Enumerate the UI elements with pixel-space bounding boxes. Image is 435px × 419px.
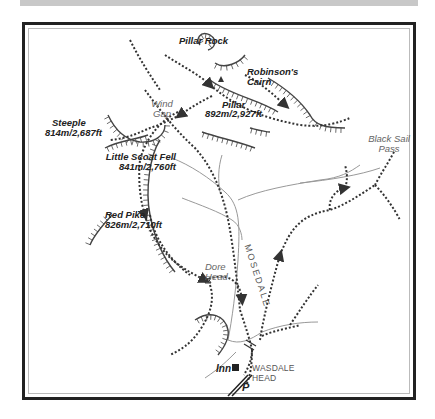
- hachure-tick: [212, 136, 213, 141]
- route: [290, 285, 318, 325]
- hachure-tick: [294, 100, 298, 104]
- hachure-tick: [144, 174, 149, 175]
- hachure-tick: [116, 143, 118, 148]
- hachure-tick: [218, 346, 222, 349]
- hachure-tick: [94, 229, 98, 232]
- hachure-tick: [255, 102, 257, 107]
- hachure-tick: [223, 330, 228, 331]
- hachure-tick: [163, 261, 167, 264]
- hachure-tick: [303, 111, 307, 114]
- label-parking: P: [242, 382, 249, 392]
- hachure-tick: [222, 325, 227, 327]
- hachure-tick: [266, 132, 267, 137]
- hachure-tick: [227, 140, 228, 145]
- hachure-tick: [246, 145, 248, 150]
- hachure-tick: [86, 243, 91, 245]
- hachure-tick: [226, 66, 227, 71]
- hachure-tick: [250, 147, 252, 152]
- hachure-tick: [197, 319, 200, 323]
- route: [262, 325, 300, 336]
- hachure-tick: [166, 266, 170, 269]
- label-red-pike-elevation: 826m/2,710ft: [105, 220, 162, 230]
- hachure-tick: [256, 130, 257, 135]
- hachure-tick: [135, 139, 136, 144]
- hachure-tick: [201, 317, 203, 322]
- hachure-tick: [241, 144, 242, 149]
- stream: [172, 158, 239, 340]
- hachure-tick: [217, 318, 220, 322]
- crag: [250, 128, 270, 132]
- stream: [182, 198, 242, 240]
- hachure-tick: [218, 86, 220, 90]
- hachure-tick: [221, 66, 222, 71]
- label-little-scoat-fell: Little Scoat Fell841m/2,760ft: [80, 152, 176, 172]
- hachure-tick: [137, 142, 138, 147]
- crags: [90, 34, 345, 355]
- label-wasdale-head: WASDALEHEAD: [252, 363, 295, 383]
- hachure-tick: [268, 108, 270, 112]
- label-inn: Inn: [216, 364, 231, 374]
- hachure-tick: [121, 142, 122, 147]
- hachure-tick: [309, 120, 313, 123]
- hachure-tick: [156, 248, 161, 250]
- hachure-tick: [91, 233, 95, 236]
- hachure-tick: [216, 350, 220, 353]
- hachure-tick: [215, 64, 217, 68]
- label-black-sail-pass: Black SailPass: [362, 134, 416, 154]
- map-canvas: [0, 0, 435, 419]
- hachure-tick: [148, 142, 149, 147]
- hachure-tick: [97, 225, 101, 228]
- hachure-tick: [240, 60, 243, 64]
- label-pillar-elevation: 892m/2,927ft: [205, 109, 262, 119]
- hachure-tick: [107, 121, 111, 124]
- hachure-tick: [220, 321, 224, 324]
- hachure-tick: [325, 126, 326, 131]
- stream: [219, 155, 222, 192]
- hachure-tick: [291, 97, 294, 101]
- hachure-tick: [264, 106, 266, 111]
- route: [130, 40, 160, 90]
- hachure-tick: [244, 56, 248, 59]
- hachure-tick: [221, 342, 225, 344]
- hachure-tick: [88, 238, 92, 241]
- hachure-tick: [117, 133, 120, 137]
- hachure-tick: [207, 134, 208, 139]
- route: [375, 185, 400, 220]
- label-wind-gap: WindGap: [142, 99, 182, 119]
- summit-triangle: [218, 76, 224, 82]
- hachure-tick: [145, 136, 147, 141]
- route: [375, 150, 395, 185]
- hachure-tick: [261, 131, 262, 136]
- hachure-tick: [231, 64, 233, 69]
- stream: [228, 322, 318, 342]
- hachure-tick: [273, 110, 276, 114]
- label-robinsons-cairn: Robinson'sCairn: [247, 67, 298, 87]
- hachure-tick: [152, 239, 157, 241]
- hachure-tick: [279, 87, 282, 91]
- hachure-tick: [126, 141, 127, 146]
- hachure-tick: [202, 133, 204, 138]
- footpaths: [110, 40, 400, 385]
- hachure-tick: [158, 253, 162, 255]
- route: [330, 188, 345, 210]
- hachure-tick: [132, 140, 134, 145]
- hachure-tick: [222, 89, 224, 93]
- hachure-tick: [169, 270, 173, 273]
- hachure-tick: [231, 141, 232, 146]
- hachure-tick: [236, 142, 237, 147]
- hachure-tick: [161, 257, 165, 259]
- streams: [172, 155, 380, 378]
- hachure-tick: [330, 127, 331, 132]
- hachure-tick: [287, 93, 290, 97]
- hachure-tick: [161, 135, 165, 138]
- inn-marker: [232, 364, 239, 371]
- label-steeple-elevation: 814m/2,687ft: [45, 128, 102, 138]
- label-dore-head: DoreHead: [205, 262, 228, 282]
- label-pillar-rock: Pillar Rock: [179, 36, 228, 46]
- hachure-tick: [251, 128, 252, 133]
- hachure-tick: [306, 115, 310, 117]
- hachure-tick: [227, 91, 229, 96]
- hachure-tick: [232, 93, 234, 98]
- hachure-tick: [246, 98, 248, 103]
- hachure-tick: [164, 131, 169, 133]
